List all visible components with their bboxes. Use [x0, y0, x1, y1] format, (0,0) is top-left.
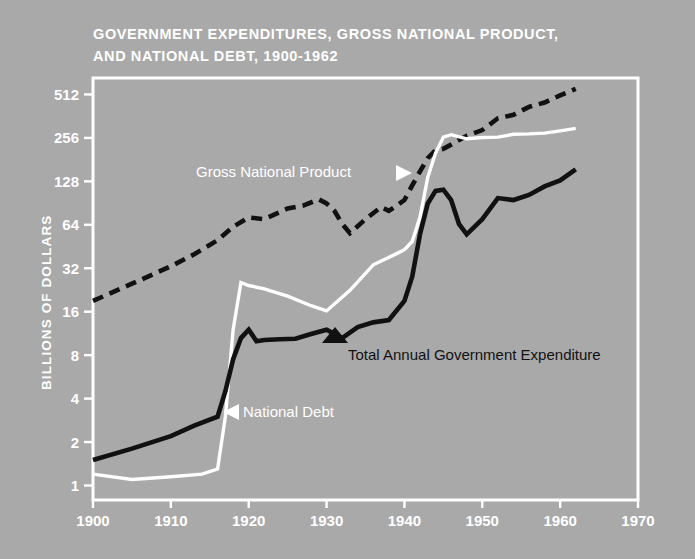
y-tick-label-512: 512	[54, 86, 79, 103]
annotation-label-national-debt: National Debt	[243, 403, 335, 420]
x-tick-label-1970: 1970	[621, 512, 654, 529]
x-tick-label-1910: 1910	[154, 512, 187, 529]
x-tick-label-1930: 1930	[310, 512, 343, 529]
y-tick-label-64: 64	[62, 216, 79, 233]
y-axis-label: BILLIONS OF DOLLARS	[39, 215, 54, 390]
annotation-label-gross-national-product: Gross National Product	[196, 163, 352, 180]
x-tick-label-1950: 1950	[466, 512, 499, 529]
annotation-label-total-annual-government-expenditure: Total Annual Government Expenditure	[348, 346, 601, 363]
chart-title-line-2: AND NATIONAL DEBT, 1900-1962	[93, 48, 338, 64]
x-tick-label-1940: 1940	[388, 512, 421, 529]
chart-title-line-1: GOVERNMENT EXPENDITURES, GROSS NATIONAL …	[93, 26, 559, 42]
y-tick-label-4: 4	[71, 390, 80, 407]
x-tick-label-1900: 1900	[76, 512, 109, 529]
y-tick-label-128: 128	[54, 173, 79, 190]
x-tick-label-1920: 1920	[232, 512, 265, 529]
y-tick-label-8: 8	[71, 347, 79, 364]
chart-figure: GOVERNMENT EXPENDITURES, GROSS NATIONAL …	[0, 0, 695, 559]
y-tick-label-2: 2	[71, 434, 79, 451]
y-tick-label-1: 1	[71, 477, 79, 494]
y-tick-label-256: 256	[54, 129, 79, 146]
y-tick-label-16: 16	[62, 303, 79, 320]
x-tick-label-1960: 1960	[543, 512, 576, 529]
y-tick-label-32: 32	[62, 260, 79, 277]
